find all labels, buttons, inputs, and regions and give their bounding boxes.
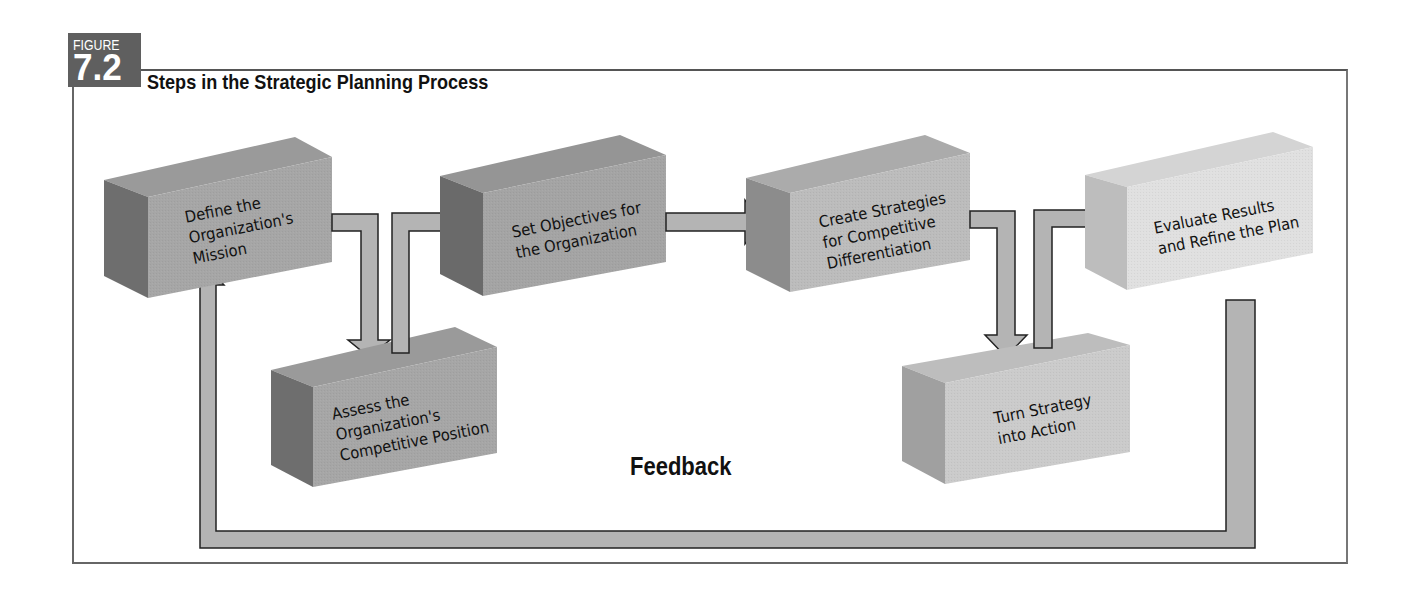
figure-number: 7.2 bbox=[73, 49, 122, 86]
figure-canvas: FIGURE 7.2 Steps in the Strategic Planni… bbox=[0, 0, 1420, 604]
figure-badge: FIGURE 7.2 bbox=[68, 33, 141, 87]
figure-title: Steps in the Strategic Planning Process bbox=[147, 70, 488, 94]
arrow-mission-to-assess bbox=[332, 214, 390, 357]
arrow-strategies-to-action bbox=[970, 211, 1027, 357]
feedback-label: Feedback bbox=[630, 452, 732, 481]
